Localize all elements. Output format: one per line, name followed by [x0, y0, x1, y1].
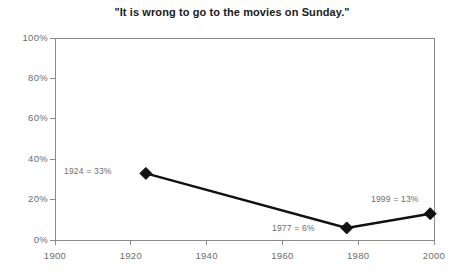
chart-plot-area	[0, 0, 464, 275]
x-axis-label-1940: 1940	[182, 250, 232, 261]
data-point-1924	[140, 167, 152, 179]
y-axis-label-100: 100%	[10, 32, 48, 43]
y-axis-label-0: 0%	[10, 234, 48, 245]
annotation-1924: 1924 = 33%	[64, 166, 112, 176]
y-axis-label-40: 40%	[10, 153, 48, 164]
x-axis-label-2000: 2000	[409, 250, 459, 261]
y-axis-label-60: 60%	[10, 112, 48, 123]
x-axis-label-1980: 1980	[333, 250, 383, 261]
annotation-1977: 1977 = 6%	[272, 223, 315, 233]
x-axis-label-1920: 1920	[106, 250, 156, 261]
x-axis-label-1960: 1960	[257, 250, 307, 261]
x-axis-label-1900: 1900	[30, 250, 80, 261]
annotation-1999: 1999 = 13%	[371, 194, 419, 204]
axis-frame	[55, 38, 434, 240]
y-axis-label-20: 20%	[10, 193, 48, 204]
chart-container: "It is wrong to go to the movies on Sund…	[0, 0, 464, 275]
data-point-1977	[341, 222, 353, 234]
y-axis-label-80: 80%	[10, 72, 48, 83]
